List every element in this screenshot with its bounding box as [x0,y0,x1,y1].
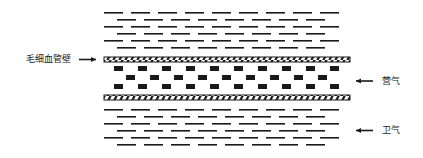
dash [266,40,285,42]
dash [131,123,150,125]
dash [239,137,258,139]
dash [212,137,231,139]
dash [131,137,150,139]
dash [225,19,244,21]
dash [239,40,258,42]
dash [306,130,325,132]
arrow-left-icon [356,79,373,84]
dash [225,144,244,146]
dash [279,116,298,118]
dash [212,123,231,125]
dash [104,12,123,14]
dash [293,12,312,14]
dash [158,26,177,28]
qi-particle [210,66,219,71]
dash [158,40,177,42]
dash [144,130,163,132]
dash [185,109,204,111]
dash [158,123,177,125]
dash [266,137,285,139]
qi-particle [258,84,267,89]
dash [320,12,339,14]
dash [104,26,123,28]
dash [212,26,231,28]
dash [306,47,325,49]
dash [185,26,204,28]
dash [293,40,312,42]
capillary-wall-label: 毛细血管壁 [26,54,71,64]
qi-particle [330,84,339,89]
dash [158,12,177,14]
dash [144,116,163,118]
arrow-right-icon [79,57,96,62]
qi-particle [210,84,219,89]
dash [117,144,136,146]
qi-particle [330,66,339,71]
dash [185,137,204,139]
dash [212,12,231,14]
dash [117,47,136,49]
qi-particle [270,75,279,80]
dash [171,116,190,118]
dash [144,33,163,35]
dash [131,26,150,28]
dash [266,109,285,111]
dash [252,144,271,146]
dash [131,12,150,14]
qi-particle [198,75,207,80]
dash [252,33,271,35]
dash [158,137,177,139]
dash [320,109,339,111]
dash [212,40,231,42]
capillary-wall-bottom [104,95,350,100]
dash [117,19,136,21]
dash [279,47,298,49]
dash [104,123,123,125]
dash [320,26,339,28]
dash [306,116,325,118]
dash [279,144,298,146]
dash [171,130,190,132]
dash [320,123,339,125]
dash [239,26,258,28]
dash [266,26,285,28]
dash [225,47,244,49]
dash [185,123,204,125]
qi-particle [282,84,291,89]
dash [306,33,325,35]
qi-particle [126,75,135,80]
dash [158,109,177,111]
dash [171,47,190,49]
qi-particle [162,84,171,89]
dash [293,123,312,125]
qi-particle [150,75,159,80]
dash [171,144,190,146]
qi-particle [234,84,243,89]
dash [117,130,136,132]
qi-particle [282,66,291,71]
dash [320,137,339,139]
dash [266,12,285,14]
capillary-wall-top [104,57,350,62]
dash [239,109,258,111]
dash [198,33,217,35]
dash [185,40,204,42]
dash [279,19,298,21]
dash [279,130,298,132]
dash [104,109,123,111]
dash [225,130,244,132]
hatched-wall [104,95,350,100]
dash [212,109,231,111]
dash [198,130,217,132]
dash [131,109,150,111]
dash [279,33,298,35]
dash [198,144,217,146]
dash [252,130,271,132]
dash [252,116,271,118]
qi-particle [138,84,147,89]
qi-particle [174,75,183,80]
dash [293,137,312,139]
dash [144,19,163,21]
dash [252,19,271,21]
qi-particle [186,84,195,89]
